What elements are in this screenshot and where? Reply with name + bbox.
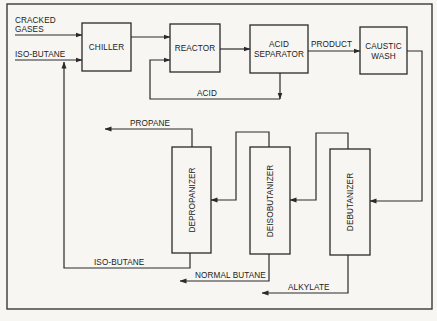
chiller-unit: CHILLER <box>82 23 131 71</box>
deisobutanizer-label: DEISOBUTANIZER <box>266 165 275 238</box>
chiller-label: CHILLER <box>89 43 124 52</box>
process-flow-diagram: CHILLER REACTOR ACID SEPARATOR CAUSTIC W… <box>0 0 437 321</box>
alkylate-stream-label: ALKYLATE <box>288 283 330 292</box>
acid-separator-label-line1: ACID <box>269 40 289 49</box>
cracked-gases-label-line1: CRACKED <box>15 16 56 25</box>
product-stream-label: PRODUCT <box>311 40 352 49</box>
normal-butane-stream-label: NORMAL BUTANE <box>195 271 266 280</box>
cracked-gases-label-line2: GASES <box>15 25 44 34</box>
reactor-unit: REACTOR <box>170 24 220 72</box>
propane-stream-label: PROPANE <box>130 119 171 128</box>
iso-butane-recycle-arrow <box>64 62 190 268</box>
acid-separator-unit: ACID SEPARATOR <box>250 25 308 73</box>
iso-butane-input-label: ISO-BUTANE <box>15 50 66 59</box>
debutanizer-label: DEBUTANIZER <box>346 173 355 231</box>
propane-out-arrow <box>105 129 192 147</box>
debutanizer-column: DEBUTANIZER <box>330 149 370 255</box>
iso-butane-recycle-label: ISO-BUTANE <box>94 258 145 267</box>
reactor-label: REACTOR <box>175 44 216 53</box>
caustic-wash-label-line1: CAUSTIC <box>365 42 402 51</box>
caustic-wash-unit: CAUSTIC WASH <box>360 27 407 74</box>
deisobutanizer-column: DEISOBUTANIZER <box>250 147 290 254</box>
acid-stream-label: ACID <box>197 89 217 98</box>
depropanizer-column: DEPROPANIZER <box>172 147 211 253</box>
acid-separator-label-line2: SEPARATOR <box>254 50 304 59</box>
caustic-wash-label-line2: WASH <box>371 52 396 61</box>
depropanizer-label: DEPROPANIZER <box>188 167 197 232</box>
